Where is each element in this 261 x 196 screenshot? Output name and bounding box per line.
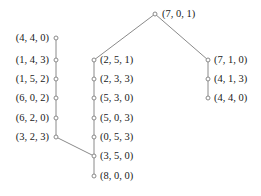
tree-node-label: (4, 1, 3) [214,74,247,85]
tree-node[interactable] [54,36,59,41]
tree-node-label: (0, 5, 3) [100,132,133,143]
tree-node[interactable] [92,96,97,101]
tree-node[interactable] [92,135,97,140]
tree-node[interactable] [206,58,211,63]
tree-node[interactable] [54,77,59,82]
tree-node[interactable] [206,77,211,82]
tree-node[interactable] [54,116,59,121]
tree-node[interactable] [54,96,59,101]
tree-node-label: (8, 0, 0) [100,171,133,182]
tree-node-label: (4, 4, 0) [214,93,247,104]
tree-node-label: (1, 4, 3) [16,55,49,66]
tree-node[interactable] [206,96,211,101]
tree-node-label: (3, 5, 0) [100,151,133,162]
tree-node-label: (2, 3, 3) [100,74,133,85]
tree-edge [56,137,94,156]
tree-node-label: (7, 1, 0) [214,55,247,66]
tree-node-label: (5, 0, 3) [100,113,133,124]
tree-node[interactable] [92,174,97,179]
tree-node-label: (6, 0, 2) [16,93,49,104]
tree-node-label: (6, 2, 0) [16,113,49,124]
tree-node[interactable] [153,12,158,17]
tree-node-label: (1, 5, 2) [16,74,49,85]
tree-node-label: (3, 2, 3) [16,132,49,143]
tree-node-label: (2, 5, 1) [100,55,133,66]
tree-node[interactable] [92,58,97,63]
tree-diagram: (7, 0, 1)(4, 4, 0)(1, 4, 3)(1, 5, 2)(6, … [0,0,261,196]
tree-node-label: (4, 4, 0) [16,33,49,44]
tree-node[interactable] [92,116,97,121]
tree-node[interactable] [54,58,59,63]
tree-node-label: (5, 3, 0) [100,93,133,104]
tree-node[interactable] [54,135,59,140]
tree-node[interactable] [92,77,97,82]
tree-edge [155,14,208,60]
tree-node[interactable] [92,154,97,159]
tree-node-label: (7, 0, 1) [162,9,195,20]
